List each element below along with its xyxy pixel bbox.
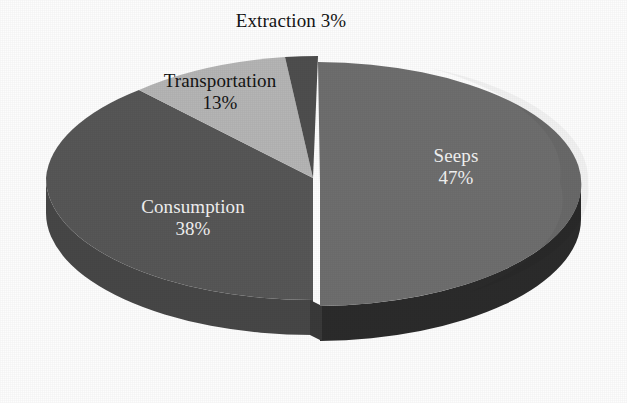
slice-side-gap <box>310 300 322 341</box>
pie-chart-figure: Extraction 3% Transportation 13% Consump… <box>0 0 627 403</box>
pie-chart-canvas <box>0 0 627 403</box>
